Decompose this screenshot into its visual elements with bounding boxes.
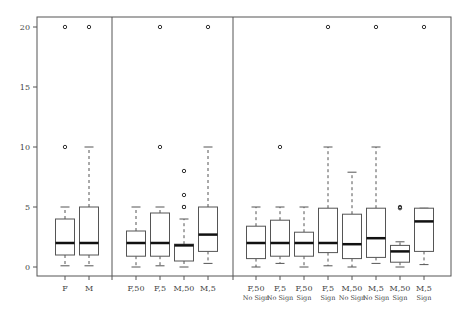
iqr-box [415, 208, 434, 251]
x-tick-label: M,5 [200, 284, 216, 293]
plot-frame [37, 17, 451, 280]
x-tick-label: M [85, 284, 93, 293]
outlier-point [182, 205, 185, 208]
outlier-point [158, 145, 161, 148]
x-tick-label: F,50 [295, 284, 312, 293]
x-tick-sublabel: Sign [393, 294, 408, 302]
x-tick-label: F [62, 284, 68, 293]
x-tick-sublabel: No Sign [363, 294, 390, 302]
outlier-point [374, 25, 377, 28]
iqr-box [343, 214, 362, 258]
x-tick-sublabel: Sign [417, 294, 432, 302]
box-f-50-no-sign [247, 207, 266, 267]
box-m-5-sign [415, 25, 434, 264]
x-tick-label: F,5 [274, 284, 286, 293]
outlier-point [326, 25, 329, 28]
x-tick-sublabel: No Sign [243, 294, 270, 302]
outlier-point [182, 169, 185, 172]
y-tick-label: 20 [20, 23, 30, 32]
x-tick-label: M,50 [342, 284, 363, 293]
outlier-point [63, 145, 66, 148]
y-tick-label: 5 [25, 203, 30, 212]
y-tick-label: 15 [20, 83, 30, 92]
iqr-box [367, 208, 386, 257]
y-tick-label: 0 [25, 263, 30, 272]
panel-sex [56, 25, 99, 265]
box-f-5 [151, 25, 170, 265]
x-tick-sublabel: Sign [321, 294, 336, 302]
iqr-box [391, 245, 410, 262]
x-tick-label: F,5 [154, 284, 166, 293]
iqr-box [151, 213, 170, 256]
box-m-50-sign [391, 205, 410, 267]
outlier-point [206, 25, 209, 28]
x-tick-label: F,50 [127, 284, 144, 293]
x-axis: FMF,50F,5M,50M,5F,50No SignF,5No SignF,5… [62, 276, 432, 302]
x-tick-label: M,5 [416, 284, 432, 293]
outlier-point [158, 25, 161, 28]
iqr-box [175, 244, 194, 261]
x-tick-label: F,5 [322, 284, 334, 293]
x-tick-sublabel: No Sign [267, 294, 294, 302]
iqr-box [271, 220, 290, 256]
panel-sex-by-group-by-sign [247, 25, 434, 267]
y-axis: 05101520 [20, 23, 37, 272]
x-tick-label: M,50 [174, 284, 195, 293]
iqr-box [56, 219, 75, 255]
iqr-box [80, 207, 99, 255]
outlier-point [182, 193, 185, 196]
iqr-box [319, 208, 338, 252]
plot-border [37, 17, 451, 276]
box-m-50 [175, 169, 194, 267]
box-m-5 [199, 25, 218, 263]
outlier-point [278, 145, 281, 148]
x-tick-label: F,50 [247, 284, 264, 293]
box-m-50-no-sign [343, 172, 362, 267]
x-tick-sublabel: No Sign [339, 294, 366, 302]
box-f-50-sign [295, 207, 314, 267]
x-tick-label: M,50 [390, 284, 411, 293]
box-f [56, 25, 75, 265]
boxplot-chart: 05101520 FMF,50F,5M,50M,5F,50No SignF,5N… [0, 0, 470, 316]
x-tick-label: M,5 [368, 284, 384, 293]
outlier-point [63, 25, 66, 28]
box-m [80, 25, 99, 265]
box-f-5-sign [319, 25, 338, 265]
y-tick-label: 10 [20, 143, 30, 152]
x-tick-sublabel: Sign [297, 294, 312, 302]
box-f-5-no-sign [271, 145, 290, 263]
box-m-5-no-sign [367, 25, 386, 263]
iqr-box [199, 207, 218, 251]
outlier-point [87, 25, 90, 28]
box-f-50 [127, 207, 146, 267]
panel-sex-by-group [127, 25, 218, 267]
outlier-point [422, 25, 425, 28]
